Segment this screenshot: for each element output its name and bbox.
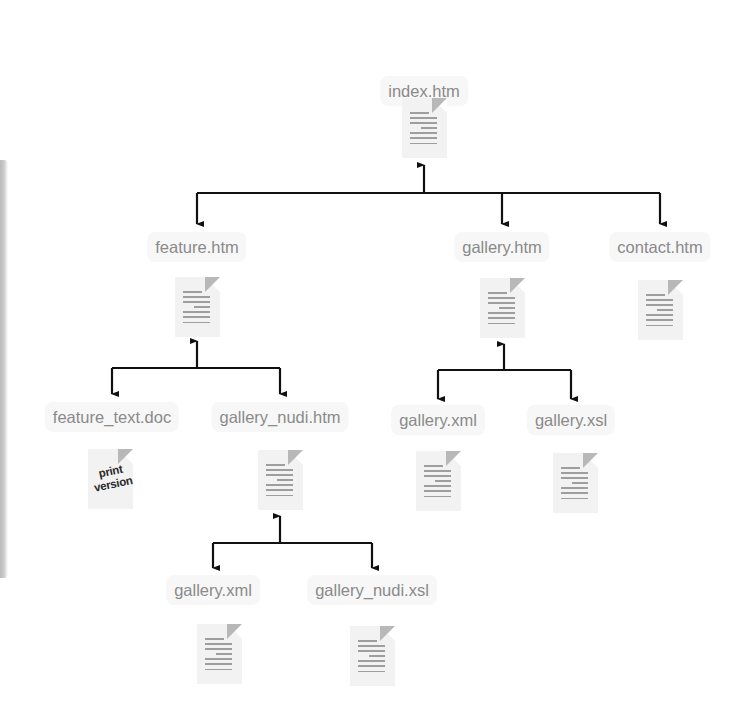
document-icon xyxy=(553,453,598,513)
document-icon xyxy=(350,626,395,686)
node-label-nudi-gallery-xml[interactable]: gallery.xml xyxy=(166,575,260,605)
document-icon xyxy=(416,451,461,511)
node-label-gallery-nudi[interactable]: gallery_nudi.htm xyxy=(211,402,348,432)
document-icon xyxy=(197,624,242,684)
node-label-feature[interactable]: feature.htm xyxy=(147,232,246,262)
document-icon xyxy=(175,277,220,337)
node-label-gallery[interactable]: gallery.htm xyxy=(454,232,549,262)
document-icon xyxy=(480,278,525,338)
node-label-gallery-xml[interactable]: gallery.xml xyxy=(391,405,485,435)
node-label-feature-text[interactable]: feature_text.doc xyxy=(45,402,179,432)
document-icon xyxy=(638,280,683,340)
node-label-contact[interactable]: contact.htm xyxy=(609,232,710,262)
tree-connectors xyxy=(0,0,749,713)
document-icon xyxy=(402,98,447,158)
print-version-document-icon: print version xyxy=(88,449,133,509)
node-label-gallery-nudi-xsl[interactable]: gallery_nudi.xsl xyxy=(307,575,437,605)
node-label-gallery-xsl[interactable]: gallery.xsl xyxy=(527,405,615,435)
document-icon xyxy=(258,450,303,510)
